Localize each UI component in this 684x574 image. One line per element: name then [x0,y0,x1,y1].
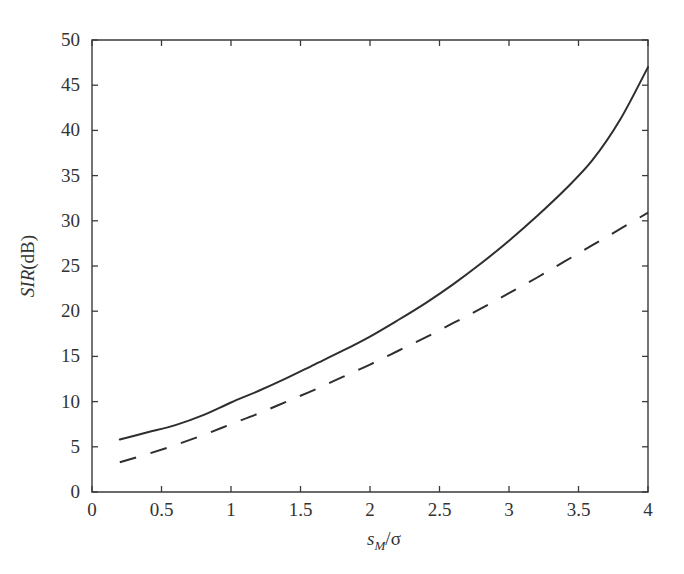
x-tick-label: 1.5 [289,499,313,520]
y-tick-label: 50 [61,29,80,50]
y-tick-label: 5 [71,436,81,457]
y-tick-label: 35 [61,165,80,186]
y-axis-title: SIR(dB) [17,235,39,297]
x-tick-label: 4 [643,499,653,520]
y-tick-label: 30 [61,210,80,231]
y-tick-label: 25 [61,255,80,276]
x-tick-label: 3 [504,499,514,520]
x-tick-label: 3.5 [567,499,591,520]
x-tick-label: 2 [365,499,375,520]
x-tick-label: 2.5 [428,499,452,520]
x-axis-tick-labels: 00.511.522.533.54 [87,499,653,520]
y-tick-label: 40 [61,119,80,140]
figure-container: 00.511.522.533.54 05101520253035404550 s… [0,0,684,574]
y-tick-label: 15 [61,345,80,366]
x-tick-label: 0.5 [150,499,174,520]
y-tick-label: 0 [71,481,81,502]
x-tick-label: 1 [226,499,236,520]
y-axis-title-text: SIR(dB) [17,235,39,297]
plot-background [0,0,684,574]
chart-plot: 00.511.522.533.54 05101520253035404550 s… [0,0,684,574]
y-tick-label: 10 [61,391,80,412]
y-tick-label: 45 [61,74,80,95]
x-tick-label: 0 [87,499,97,520]
y-tick-label: 20 [61,300,80,321]
